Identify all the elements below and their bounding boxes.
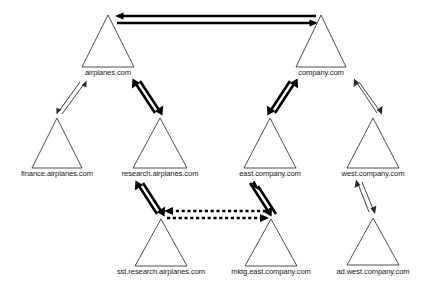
link-sst-mktg	[164, 207, 269, 222]
node-mktg-east-company-com[interactable]: mktg.east.company.com	[231, 219, 311, 276]
zone-triangle-shape[interactable]	[347, 118, 399, 168]
zone-triangle-shape[interactable]	[32, 118, 82, 168]
zone-label: east.company.com	[239, 169, 301, 178]
link-line-up-pointing	[357, 83, 377, 113]
zone-label: research.airplanes.com	[122, 169, 199, 178]
link-line-down-pointing	[59, 82, 80, 111]
node-sst-research-airplanes-com[interactable]: sst.research.airplanes.com	[117, 219, 205, 276]
link-line-down-pointing	[359, 82, 379, 110]
zone-label: finance.airplanes.com	[21, 169, 93, 178]
node-east-company-com[interactable]: east.company.com	[239, 118, 301, 178]
zone-label: mktg.east.company.com	[231, 267, 311, 276]
zone-label: ad.west.company.com	[336, 267, 409, 276]
arrowhead-down-icon	[377, 106, 383, 115]
zone-label: sst.research.airplanes.com	[117, 267, 205, 276]
arrowhead-left-icon	[164, 207, 173, 215]
zone-triangle-shape[interactable]	[133, 118, 187, 168]
link-airplanes-finance	[56, 81, 86, 115]
zone-triangle-shape[interactable]	[245, 219, 297, 266]
link-line-up-pointing	[62, 84, 84, 114]
dns-hierarchy-diagram: airplanes.com company.com finance.airpla…	[0, 0, 429, 295]
zone-label: west.company.com	[341, 169, 405, 178]
link-company-east	[267, 79, 298, 116]
node-west-company-com[interactable]: west.company.com	[341, 118, 405, 178]
node-group: airplanes.com company.com finance.airpla…	[21, 15, 409, 276]
link-line-up-pointing	[358, 184, 369, 212]
link-line-down-pointing	[362, 182, 373, 209]
zone-triangle-shape[interactable]	[347, 218, 399, 265]
zone-label: company.com	[298, 68, 344, 77]
link-research-sst	[135, 181, 165, 217]
node-research-airplanes-com[interactable]: research.airplanes.com	[122, 118, 199, 178]
zone-triangle-shape[interactable]	[244, 118, 296, 168]
arrowhead-left-icon	[115, 12, 124, 19]
link-west-ad	[355, 180, 377, 215]
zone-triangle-shape[interactable]	[135, 219, 187, 266]
node-ad-west-company-com[interactable]: ad.west.company.com	[336, 218, 409, 276]
arrowhead-right-icon	[260, 214, 269, 222]
link-company-west	[354, 79, 383, 115]
diagram-canvas: airplanes.com company.com finance.airpla…	[0, 0, 429, 295]
link-airplanes-research	[132, 79, 163, 116]
zone-label: airplanes.com	[85, 68, 131, 77]
arrowhead-down-icon	[371, 206, 377, 215]
link-airplanes-company	[115, 12, 318, 26]
node-finance-airplanes-com[interactable]: finance.airplanes.com	[21, 118, 93, 178]
